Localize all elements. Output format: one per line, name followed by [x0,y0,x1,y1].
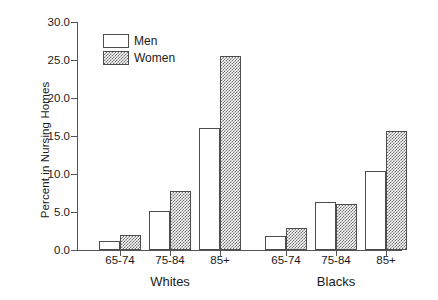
bar-whites-85+-women [220,56,241,250]
bar-blacks-85+-women [386,131,407,250]
bar-blacks-75-84-women [336,204,357,250]
bar-chart: Percent in Nursing Homes 0.05.010.015.02… [0,0,438,300]
bar-whites-65-74-women [120,235,141,250]
x-axis-category-label: 65-74 [105,254,134,266]
y-axis-tick [71,174,77,175]
bar-whites-75-84-men [149,211,170,250]
bar-whites-85+-men [199,128,220,250]
bar-blacks-65-74-women [286,228,307,250]
y-axis-tick [71,250,77,251]
y-axis-tick-label: 20.0 [30,92,70,104]
legend-label-men: Men [134,35,157,47]
y-axis-tick [71,22,77,23]
x-axis-category-label: 85+ [210,254,230,266]
y-axis-line [77,22,78,251]
y-axis-tick [71,212,77,213]
legend-item-women: Women [103,50,175,65]
legend-swatch-women [103,51,129,65]
chart-legend: MenWomen [103,33,175,65]
legend-label-women: Women [134,52,175,64]
y-axis-tick [71,136,77,137]
y-axis-tick-labels: 0.05.010.015.020.025.030.0 [28,22,70,251]
x-axis-category-label: 65-74 [271,254,300,266]
y-axis-tick [71,98,77,99]
x-axis-line [77,250,402,251]
y-axis-tick-label: 25.0 [30,54,70,66]
x-axis-category-label: 75-84 [155,254,184,266]
bar-blacks-65-74-men [265,236,286,250]
panel-label-whites: Whites [150,274,190,289]
y-axis-tick-label: 0.0 [30,244,70,256]
x-axis-category-label: 85+ [376,254,396,266]
bar-whites-75-84-women [170,191,191,250]
panel-label-blacks: Blacks [317,274,355,289]
bar-blacks-85+-men [365,171,386,250]
y-axis-tick-label: 5.0 [30,206,70,218]
y-axis-tick [71,60,77,61]
legend-item-men: Men [103,33,175,48]
x-axis-category-label: 75-84 [321,254,350,266]
y-axis-tick-label: 15.0 [30,130,70,142]
y-axis-tick-label: 10.0 [30,168,70,180]
bar-whites-65-74-men [99,241,120,250]
bar-blacks-75-84-men [315,202,336,250]
y-axis-tick-label: 30.0 [30,16,70,28]
legend-swatch-men [103,34,129,48]
